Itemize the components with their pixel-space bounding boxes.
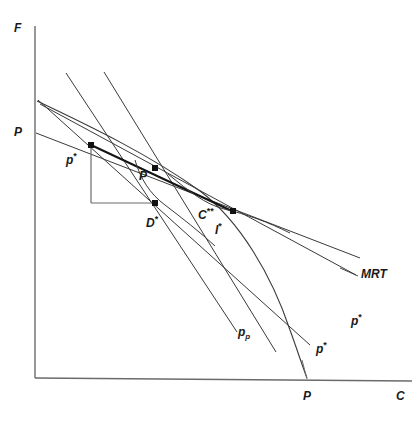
label-c-double-star-text: C — [198, 208, 207, 222]
y-axis-tick-label-p: P — [14, 126, 22, 138]
label-d-star: D* — [146, 215, 158, 229]
x-axis-tick-label-p: P — [303, 390, 311, 402]
label-p-star-sup: * — [73, 151, 77, 161]
x-axis-tick-p — [302, 360, 307, 379]
label-p-star-line-2-sup: * — [323, 340, 327, 350]
diagram-canvas: F P C P p* P D* C** I* MRT pp p* p* — [0, 0, 419, 426]
mrt-leader-line — [340, 268, 358, 276]
marker-c-double-star — [230, 208, 236, 214]
label-p-p-sub: p — [245, 332, 250, 341]
label-mrt: MRT — [361, 268, 387, 280]
x-axis — [35, 378, 412, 381]
trade-line-p-star-to-c-double-star — [91, 145, 234, 212]
mrt-line — [40, 104, 356, 275]
label-p-p: pp — [238, 326, 250, 341]
label-d-star-sup: * — [155, 214, 159, 224]
label-p-production: P — [139, 170, 147, 182]
y-axis-label: F — [14, 22, 21, 34]
label-p-star-line-2: p* — [316, 341, 327, 355]
label-p-star-line-1: p* — [351, 313, 362, 327]
label-c-double-star-sup: ** — [207, 206, 214, 216]
label-d-star-text: D — [146, 216, 155, 230]
label-i-star: I* — [215, 222, 222, 236]
x-axis-label: C — [396, 390, 405, 402]
label-c-double-star: C** — [198, 207, 214, 221]
price-line-through-production-point — [104, 72, 276, 352]
label-p-star: p* — [66, 152, 77, 166]
marker-p-star — [88, 142, 94, 148]
marker-d-star — [152, 200, 158, 206]
label-i-star-sup: * — [218, 221, 222, 231]
marker-p-production — [152, 165, 158, 171]
label-p-star-line-1-sup: * — [358, 312, 362, 322]
